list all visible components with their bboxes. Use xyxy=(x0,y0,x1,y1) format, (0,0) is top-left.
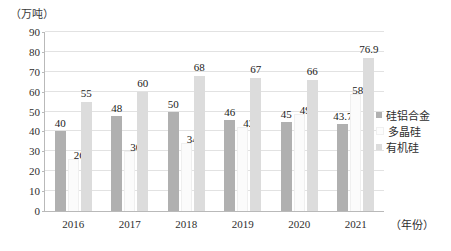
bar-value-label: 68 xyxy=(194,62,205,73)
bar: 42 xyxy=(237,127,248,211)
y-axis-tick-label: 60 xyxy=(29,86,40,98)
legend-swatch-icon xyxy=(376,112,382,118)
bar: 66 xyxy=(307,80,318,211)
bar: 43.7 xyxy=(337,124,348,211)
bar-group: 4026552016 xyxy=(45,32,102,211)
legend-swatch-icon xyxy=(376,127,384,135)
bar-value-label: 60 xyxy=(137,78,148,89)
legend-item[interactable]: 有机硅 xyxy=(376,139,448,155)
bar: 48 xyxy=(111,116,122,211)
bar-chart: （万吨） 0102030405060708090 402655201648306… xyxy=(0,0,451,251)
x-axis-tick-label: 2020 xyxy=(288,218,310,230)
bar: 49 xyxy=(294,114,305,211)
y-axis-tick-label: 30 xyxy=(29,145,40,157)
x-axis-tick-label: 2018 xyxy=(175,218,197,230)
bar: 30 xyxy=(124,151,135,211)
bar-group: 4549662020 xyxy=(271,32,328,211)
y-axis-tick-label: 80 xyxy=(29,46,40,58)
bar: 58.8 xyxy=(350,94,361,211)
bar: 46 xyxy=(224,120,235,211)
bar: 76.9 xyxy=(363,58,374,211)
bar: 26 xyxy=(68,159,79,211)
legend-label: 硅铝合金 xyxy=(386,107,430,123)
x-axis-tick-label: 2019 xyxy=(232,218,254,230)
bar: 34 xyxy=(181,143,192,211)
legend-item[interactable]: 多晶硅 xyxy=(376,123,448,139)
bar: 67 xyxy=(250,78,261,211)
bar: 45 xyxy=(281,122,292,212)
y-axis-tick-label: 90 xyxy=(29,26,40,38)
y-axis-unit-label: （万吨） xyxy=(10,5,54,21)
y-axis-tick-label: 50 xyxy=(29,106,40,118)
bar-value-label: 55 xyxy=(81,88,92,99)
y-axis-tick-label: 20 xyxy=(29,165,40,177)
bar-value-label: 50 xyxy=(168,99,179,110)
legend-label: 有机硅 xyxy=(386,139,419,155)
bar-group: 4830602017 xyxy=(102,32,159,211)
bar: 50 xyxy=(168,112,179,211)
bar-value-label: 40 xyxy=(55,118,66,129)
bar: 68 xyxy=(194,76,205,211)
y-axis-tick-label: 10 xyxy=(29,185,40,197)
bar-value-label: 45 xyxy=(281,109,292,120)
bar-value-label: 48 xyxy=(111,103,122,114)
x-axis-title: （年份） xyxy=(390,216,434,232)
plot-area: 0102030405060708090 40265520164830602017… xyxy=(44,32,384,212)
y-axis-tick-label: 40 xyxy=(29,125,40,137)
y-axis-tick-label: 0 xyxy=(35,205,41,217)
legend-item[interactable]: 硅铝合金 xyxy=(376,107,448,123)
x-axis-tick-label: 2017 xyxy=(119,218,141,230)
legend-label: 多晶硅 xyxy=(388,123,421,139)
bar-value-label: 67 xyxy=(250,64,261,75)
x-axis-tick-label: 2021 xyxy=(345,218,367,230)
bar: 60 xyxy=(137,92,148,211)
y-axis-tick-label: 70 xyxy=(29,66,40,78)
bar-value-label: 46 xyxy=(224,107,235,118)
x-axis-tick-label: 2016 xyxy=(62,218,84,230)
chart-legend: 硅铝合金多晶硅有机硅 xyxy=(376,107,448,155)
bar: 55 xyxy=(81,102,92,211)
bar-value-label: 76.9 xyxy=(359,44,378,55)
bar-group: 5034682018 xyxy=(158,32,215,211)
bar-value-label: 66 xyxy=(307,66,318,77)
bar-group: 4642672019 xyxy=(215,32,272,211)
legend-swatch-icon xyxy=(376,144,382,150)
bar: 40 xyxy=(55,131,66,211)
y-axis-tick-mark xyxy=(42,211,45,212)
bar-groups: 4026552016483060201750346820184642672019… xyxy=(45,32,384,211)
